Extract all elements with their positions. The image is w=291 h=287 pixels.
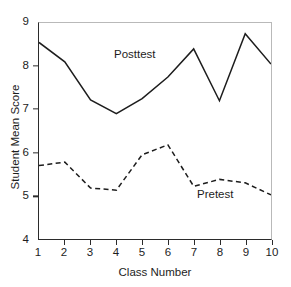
x-tick-mark-4: [116, 240, 117, 245]
x-tick-label-10: 10: [266, 247, 279, 259]
pretest-series-label: Pretest: [196, 188, 234, 200]
x-tick-label-9: 9: [243, 247, 249, 259]
line-chart-figure: 456789 Student Mean Score 12345678910 Cl…: [0, 0, 291, 287]
y-tick-label-9: 9: [23, 16, 29, 28]
x-tick-mark-3: [90, 240, 91, 245]
y-axis-title: Student Mean Score: [9, 57, 21, 217]
posttest-series-label: Posttest: [113, 48, 157, 60]
x-tick-label-7: 7: [191, 247, 197, 259]
x-tick-label-5: 5: [139, 247, 145, 259]
x-tick-mark-8: [220, 240, 221, 245]
x-tick-label-1: 1: [35, 247, 41, 259]
y-tick-label-7: 7: [23, 103, 29, 115]
x-tick-mark-5: [142, 240, 143, 245]
x-tick-mark-9: [246, 240, 247, 245]
y-tick-label-8: 8: [23, 60, 29, 72]
y-tick-label-5: 5: [23, 191, 29, 203]
y-tick-label-4: 4: [23, 234, 29, 246]
x-tick-label-8: 8: [217, 247, 223, 259]
chart-screenshot: 456789 Student Mean Score 12345678910 Cl…: [0, 0, 291, 287]
x-tick-mark-6: [168, 240, 169, 245]
x-tick-label-2: 2: [61, 247, 67, 259]
x-tick-mark-10: [272, 240, 273, 245]
x-tick-mark-2: [64, 240, 65, 245]
x-tick-label-6: 6: [165, 247, 171, 259]
x-tick-label-3: 3: [87, 247, 93, 259]
posttest-series-line: [39, 34, 271, 114]
x-tick-mark-7: [194, 240, 195, 245]
x-tick-label-4: 4: [113, 247, 119, 259]
x-axis-title: Class Number: [38, 266, 272, 278]
pretest-series-line: [39, 145, 271, 195]
y-tick-label-6: 6: [23, 147, 29, 159]
